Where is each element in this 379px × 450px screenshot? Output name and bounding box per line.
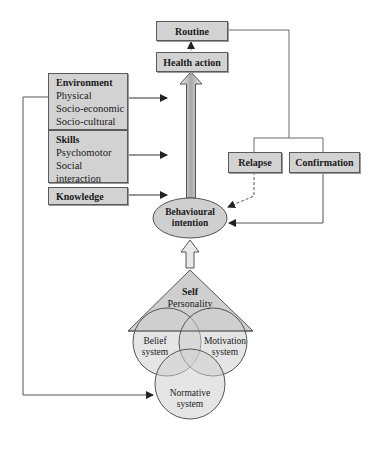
- skills-box: Skills Psychomotor Social interaction Se…: [48, 130, 128, 183]
- environment-box: Environment Physical Socio-economic Soci…: [48, 73, 128, 130]
- motivation-line-2: system: [200, 347, 250, 358]
- skills-item: Social interaction: [56, 159, 127, 185]
- skills-item: Psychomotor: [56, 146, 127, 159]
- normative-system-label: Normative system: [165, 388, 215, 410]
- belief-line-1: Belief: [130, 336, 180, 347]
- routine-label: Routine: [175, 25, 209, 38]
- confirmation-to-intention-arrow: [229, 172, 323, 223]
- relapse-to-intention-arrow: [228, 172, 254, 207]
- knowledge-box: Knowledge: [48, 187, 128, 205]
- belief-line-2: system: [130, 347, 180, 358]
- intention-line-2: intention: [153, 218, 227, 229]
- health-action-label: Health action: [163, 56, 221, 69]
- skills-title: Skills: [56, 133, 127, 146]
- relapse-box: Relapse: [228, 152, 282, 173]
- motivation-system-label: Motivation system: [200, 336, 250, 358]
- routine-box: Routine: [156, 21, 228, 41]
- belief-system-label: Belief system: [130, 336, 180, 358]
- self-to-intention-arrow: [181, 240, 199, 268]
- self-title: Self: [150, 286, 230, 298]
- intention-line-1: Behavioural: [153, 207, 227, 218]
- confirmation-label: Confirmation: [295, 156, 353, 169]
- normative-line-1: Normative: [165, 388, 215, 399]
- environment-title: Environment: [56, 76, 127, 89]
- normative-line-2: system: [165, 399, 215, 410]
- health-action-box: Health action: [156, 52, 228, 72]
- motivation-line-1: Motivation: [200, 336, 250, 347]
- self-label: Self Personality: [150, 286, 230, 310]
- health-behaviour-model-diagram: Routine Health action Environment Physic…: [0, 0, 379, 450]
- routine-feedback-connector: [227, 30, 323, 152]
- relapse-label: Relapse: [238, 156, 271, 169]
- self-subtitle: Personality: [150, 298, 230, 310]
- confirmation-box: Confirmation: [289, 152, 360, 173]
- behavioural-intention-label: Behavioural intention: [153, 207, 227, 229]
- environment-item: Physical: [56, 89, 127, 102]
- environment-item: Socio-economic: [56, 102, 127, 115]
- knowledge-title: Knowledge: [56, 190, 127, 203]
- environment-item: Socio-cultural: [56, 115, 127, 128]
- intention-to-action-arrow: [180, 72, 202, 198]
